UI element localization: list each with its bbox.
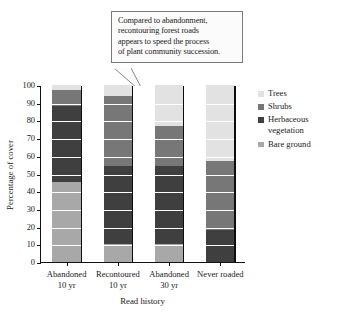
y-axis-tick [37,157,41,158]
chart-legend: TreesShrubsHerbaceousvegetationBare grou… [258,88,338,152]
x-axis-category-line-1: Abandoned [149,269,189,280]
bar-segment-trees[interactable] [104,85,133,96]
legend-item[interactable]: Shrubs [258,101,338,112]
callout-line-3: appears to speed the process [118,37,237,47]
bar-edge-line [132,86,133,262]
bar-stack [104,86,133,262]
x-axis-tick [67,262,68,266]
bar-segment-trees[interactable] [52,85,81,90]
bar-stack [155,86,184,262]
legend-label: Herbaceousvegetation [268,114,309,136]
legend-item[interactable]: Bare ground [258,139,338,150]
x-axis-category-line-2: 10 yr [96,280,140,291]
chart-plot-area: 0102030405060708090100Abandoned10 yrReco… [40,86,245,263]
y-axis-tick [37,245,41,246]
legend-item[interactable]: Herbaceousvegetation [258,114,338,136]
bar-edge-line [234,86,235,262]
y-axis-tick-label: 90 [27,99,35,107]
callout-line-1: Compared to abandonment, [118,16,237,26]
legend-label: Bare ground [268,139,311,150]
y-axis-tick-label: 80 [27,117,35,125]
x-axis-tick [169,262,170,266]
legend-item[interactable]: Trees [258,88,338,99]
x-axis-category-label: Abandoned10 yr [47,269,87,291]
x-axis-title: Read history [40,296,245,306]
y-axis-tick-label: 60 [27,153,35,161]
legend-label: Shrubs [268,101,292,112]
bar-segment-shrubs[interactable] [155,126,184,167]
legend-label-continuation: vegetation [268,125,309,136]
bar-segment-shrubs[interactable] [206,161,235,230]
y-axis-tick-label: 30 [27,206,35,214]
y-axis-tick [37,210,41,211]
annotation-callout: Compared to abandonment, recontouring fo… [111,11,243,63]
x-axis-category-label: Never roaded [197,269,244,280]
legend-swatch-icon [258,104,264,110]
callout-line-2: recontouring forest roads [118,26,237,36]
y-axis-tick-label: 50 [27,170,35,178]
x-axis-category-label: Abandoned30 yr [149,269,189,291]
bar-segment-trees[interactable] [155,85,184,126]
bar-edge-line [81,86,82,262]
y-axis-tick [37,121,41,122]
bar-segment-herbaceous-vegetation[interactable] [155,166,184,244]
y-axis-tick [37,86,41,87]
y-axis-title-text: Percentage of cover [5,140,15,210]
bar-stack [206,86,235,262]
bar-segment-bare-ground[interactable] [155,244,184,262]
bar-edge-line [183,86,184,262]
legend-swatch-icon [258,91,264,97]
bar-column[interactable] [52,86,81,262]
bar-stack [52,86,81,262]
x-axis-tick [118,262,119,266]
y-axis-tick-label: 40 [27,188,35,196]
bar-segment-shrubs[interactable] [52,90,81,106]
x-axis-category-line-1: Never roaded [197,269,244,280]
y-axis-tick-label: 100 [22,82,35,90]
bar-segment-bare-ground[interactable] [104,244,133,262]
bar-segment-shrubs[interactable] [104,96,133,167]
y-axis-tick [37,175,41,176]
y-axis-tick-label: 20 [27,223,35,231]
bar-segment-trees[interactable] [206,85,235,161]
y-axis-tick [37,104,41,105]
x-axis-category-line-1: Abandoned [47,269,87,280]
x-axis-category-line-1: Recontoured [96,269,140,280]
legend-swatch-icon [258,117,264,123]
y-axis-title: Percentage of cover [3,86,16,263]
y-axis-tick-label: 0 [31,259,35,267]
callout-line-4: of plant community succession. [118,47,237,57]
bar-segment-herbaceous-vegetation[interactable] [104,166,133,244]
y-axis-tick [37,228,41,229]
bar-segment-bare-ground[interactable] [52,182,81,262]
x-axis-category-line-2: 10 yr [47,280,87,291]
y-axis-tick-label: 10 [27,241,35,249]
bar-column[interactable] [104,86,133,262]
legend-swatch-icon [258,142,264,148]
bar-segment-herbaceous-vegetation[interactable] [206,230,235,262]
bar-segment-herbaceous-vegetation[interactable] [52,106,81,182]
x-axis-category-label: Recontoured10 yr [96,269,140,291]
bar-column[interactable] [206,86,235,262]
y-axis-tick [37,263,41,264]
bar-column[interactable] [155,86,184,262]
x-axis-tick [220,262,221,266]
y-axis-tick [37,139,41,140]
legend-label: Trees [268,88,287,99]
x-axis-category-line-2: 30 yr [149,280,189,291]
y-axis-tick [37,192,41,193]
y-axis-tick-label: 70 [27,135,35,143]
